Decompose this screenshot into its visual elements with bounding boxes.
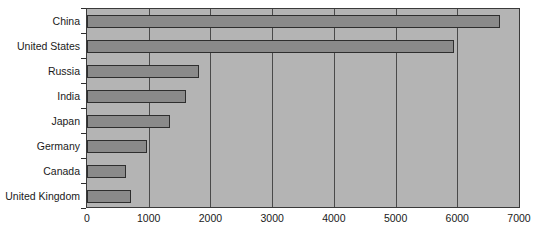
y-tick-label-russia: Russia xyxy=(0,65,80,76)
bar-canada xyxy=(87,165,126,178)
bar-united-states xyxy=(87,40,454,53)
y-tick-label-united-kingdom: United Kingdom xyxy=(0,190,80,201)
y-tick-label-japan: Japan xyxy=(0,115,80,126)
y-tick-mark xyxy=(81,208,86,209)
bar-united-kingdom xyxy=(87,190,131,203)
x-tick-label-5000: 5000 xyxy=(384,212,407,224)
bar-row xyxy=(87,134,147,159)
plot-area xyxy=(86,8,520,208)
bar-row xyxy=(87,184,131,208)
bar-chart: ChinaUnited StatesRussiaIndiaJapanGerman… xyxy=(0,0,536,243)
bar-china xyxy=(87,15,500,28)
y-tick-label-china: China xyxy=(0,15,80,26)
bar-row xyxy=(87,34,454,59)
bar-row xyxy=(87,109,170,134)
bar-row xyxy=(87,84,186,109)
x-tick-label-7000: 7000 xyxy=(507,212,530,224)
y-tick-label-united-states: United States xyxy=(0,40,80,51)
bar-germany xyxy=(87,140,147,153)
y-tick-label-canada: Canada xyxy=(0,165,80,176)
y-tick-label-india: India xyxy=(0,90,80,101)
gridline-6000 xyxy=(457,9,458,207)
bar-row xyxy=(87,9,500,34)
bar-india xyxy=(87,90,186,103)
bar-row xyxy=(87,159,126,184)
x-axis-labels: 01000200030004000500060007000 xyxy=(0,212,536,232)
x-tick-label-3000: 3000 xyxy=(260,212,283,224)
x-tick-label-2000: 2000 xyxy=(199,212,222,224)
x-tick-label-1000: 1000 xyxy=(137,212,160,224)
bar-japan xyxy=(87,115,170,128)
x-tick-label-6000: 6000 xyxy=(446,212,469,224)
y-tick-label-germany: Germany xyxy=(0,140,80,151)
x-tick-label-0: 0 xyxy=(84,212,90,224)
bar-row xyxy=(87,59,199,84)
bar-russia xyxy=(87,65,199,78)
x-tick-label-4000: 4000 xyxy=(322,212,345,224)
y-axis-labels: ChinaUnited StatesRussiaIndiaJapanGerman… xyxy=(0,0,80,243)
